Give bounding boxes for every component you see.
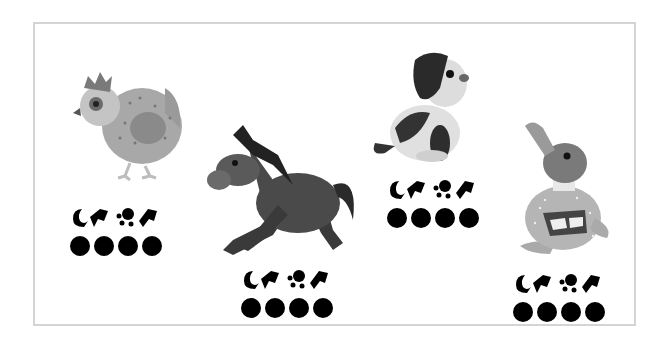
dot — [94, 236, 114, 256]
duck-symbols — [513, 272, 608, 322]
dot — [289, 298, 309, 318]
dog-image — [370, 48, 470, 166]
dot — [241, 298, 261, 318]
dot — [435, 208, 455, 228]
paw-arrow-glyph-icon — [285, 269, 331, 289]
count-dots — [70, 236, 165, 256]
dot — [537, 302, 557, 322]
dot — [265, 298, 285, 318]
dot — [70, 236, 90, 256]
hen-image — [70, 68, 185, 183]
duck-image — [515, 118, 615, 258]
moon-hand-glyph-icon — [387, 179, 429, 199]
count-dots — [241, 298, 336, 318]
dot — [585, 302, 605, 322]
count-dots — [513, 302, 608, 322]
count-dots — [387, 208, 482, 228]
paw-arrow-glyph-icon — [431, 179, 477, 199]
dog-symbols — [387, 178, 482, 228]
moon-hand-glyph-icon — [513, 273, 555, 293]
dot — [118, 236, 138, 256]
dot — [513, 302, 533, 322]
horse-symbols — [241, 268, 336, 318]
moon-hand-glyph-icon — [241, 269, 283, 289]
dot — [142, 236, 162, 256]
paw-arrow-glyph-icon — [114, 207, 160, 227]
hen-symbols — [70, 206, 165, 256]
moon-hand-glyph-icon — [70, 207, 112, 227]
paw-arrow-glyph-icon — [557, 273, 603, 293]
dot — [387, 208, 407, 228]
dot — [313, 298, 333, 318]
dot — [411, 208, 431, 228]
horse-image — [203, 125, 358, 260]
dot — [459, 208, 479, 228]
dot — [561, 302, 581, 322]
